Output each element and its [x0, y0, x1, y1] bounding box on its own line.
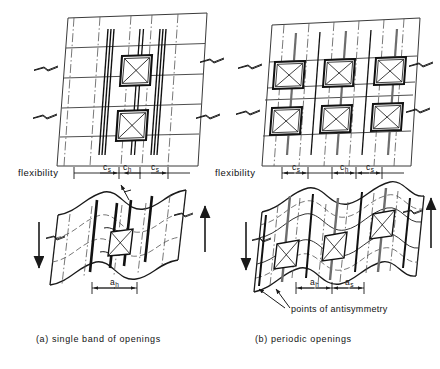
opening-cell [323, 59, 355, 87]
dimension-ah-a: ah [110, 277, 119, 287]
opening-cell-deformed [322, 232, 347, 261]
break-symbol [406, 62, 433, 113]
caption-panel-a: (a) single band of openings [36, 334, 161, 344]
flexibility-label-a: flexibility [18, 167, 58, 178]
dimension-cs-left-a: cs [103, 162, 111, 172]
caption-panel-b: (b) periodic openings [255, 334, 352, 344]
dimension-cs-right-a: cs [151, 162, 159, 172]
opening-cell [374, 57, 406, 85]
opening-cell [320, 105, 352, 133]
flexibility-label-b: flexibility [215, 167, 255, 178]
opening-cell-deformed [108, 229, 133, 256]
opening-cell [371, 103, 403, 131]
opening-cell [270, 107, 302, 135]
antisymmetry-leader [259, 289, 290, 308]
opening-cell-deformed [370, 210, 395, 239]
dimension-cs-right-b: cs [366, 162, 374, 172]
opening-cell [116, 110, 148, 141]
shear-annotation-arrow [121, 185, 131, 200]
break-symbol [236, 64, 262, 115]
opening-cell [273, 61, 305, 89]
break-symbol [33, 66, 58, 119]
opening-cell [120, 55, 152, 86]
dimension-ch-b: ch [340, 162, 349, 172]
panel-b-lower-deformed [246, 182, 431, 308]
panel-b-upper-plan [236, 18, 433, 179]
dimension-ah-b: ah [310, 277, 319, 287]
panel-a-upper-plan [33, 13, 224, 179]
break-symbol [196, 58, 224, 119]
antisymmetry-annotation: points of antisymmetry [291, 304, 388, 314]
dimension-as-b: as [345, 277, 354, 287]
opening-cell-deformed [274, 240, 299, 269]
dimension-cs-left-b: cs [292, 162, 300, 172]
dimension-ch-a: ch [123, 162, 132, 172]
panel-a-lower-deformed [39, 185, 205, 294]
